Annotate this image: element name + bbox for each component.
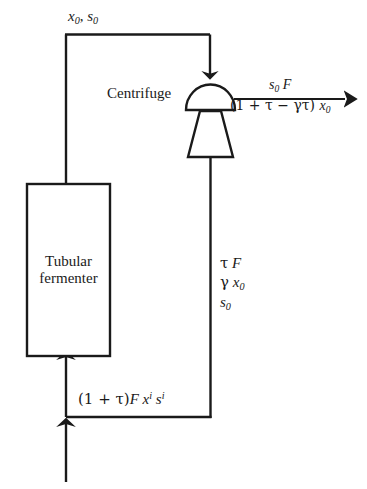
stream-label-feed: (1 + τ)F xi si [78, 390, 165, 409]
greek-gamma: γ [220, 273, 229, 291]
var-F: F [130, 391, 139, 407]
fermenter-label-line-1: Tubular [45, 253, 92, 270]
centrifuge-label: Centrifuge [107, 85, 171, 103]
recycle-line-2: γ x0 [220, 274, 244, 293]
recycle-line-3: s0 [220, 294, 244, 313]
product-outlet-numerator: s0 F [228, 77, 332, 96]
recycle-line-1: τ F [220, 255, 244, 273]
stream-label-recycle: τ F γ x0 s0 [220, 255, 244, 313]
feed-prefix: (1 + τ) [78, 390, 130, 408]
var-s-subscript: 0 [226, 300, 231, 311]
var-x-subscript: 0 [326, 105, 331, 115]
process-flow-diagram: x0, s0 Centrifuge s0 F (1 + τ − γτ) x0 τ… [0, 0, 367, 489]
var-s-subscript: 0 [93, 15, 98, 26]
var-s-superscript: i [162, 390, 165, 401]
stream-label-product-outlet: s0 F (1 + τ − γτ) x0 [228, 77, 332, 116]
centrifuge-body-shape [188, 111, 233, 157]
stream-label-top-outlet: x0, s0 [68, 8, 98, 27]
var-F: F [232, 255, 241, 271]
var-x: x [68, 8, 75, 24]
denominator-expression: (1 + τ − γτ) [230, 97, 319, 113]
fermenter-label: Tubular fermenter [27, 184, 110, 356]
var-x-subscript: 0 [239, 281, 244, 292]
var-F: F [283, 77, 292, 92]
fermenter-label-line-2: fermenter [39, 270, 97, 287]
var-s-subscript: 0 [275, 84, 280, 94]
var-x-superscript: i [149, 390, 152, 401]
product-outlet-denominator: (1 + τ − γτ) x0 [228, 96, 332, 116]
greek-tau: τ [220, 254, 228, 272]
